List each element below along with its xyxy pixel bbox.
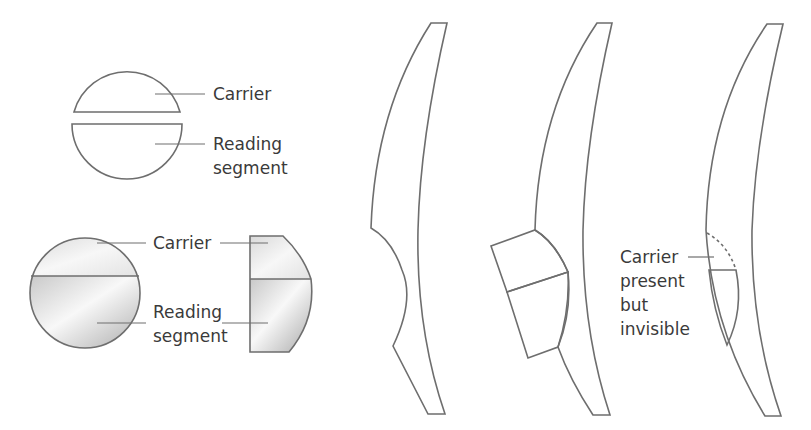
carrier-label-2: Carrier [153,233,211,253]
exploded-components: Carrier Reading segment [72,72,288,179]
lens-with-bonded-segment [491,23,612,415]
invisible-label-line3: but [620,295,649,315]
segment-label-line2: segment [213,158,288,178]
carrier-cap [74,72,180,112]
lens-with-invisible-carrier: Carrier present but invisible [620,24,783,416]
bonded-reading-segment [507,272,569,358]
invisible-reading-segment [709,270,739,345]
invisible-label-line4: invisible [620,319,690,339]
bonded-lens-profile [535,23,612,415]
invisible-label-line2: present [620,271,685,291]
segment-label-2-line2: segment [153,326,228,346]
segment-label-line1: Reading [213,134,282,154]
carrier-dashed-outline [707,233,736,270]
assembled-front-and-side: Carrier Reading segment [28,233,312,352]
bonded-carrier-part [491,230,568,292]
carrier-label: Carrier [213,84,271,104]
invisible-label-line1: Carrier [620,247,678,267]
lens-with-recess [371,23,447,414]
bifocal-diagram: Carrier Reading segment Carrier Reading … [0,0,811,430]
reading-segment-piece [72,124,182,179]
invisible-lens-profile [706,24,783,416]
recessed-lens-profile [371,23,447,414]
side-segment [250,279,312,352]
segment-label-2-line1: Reading [153,302,222,322]
